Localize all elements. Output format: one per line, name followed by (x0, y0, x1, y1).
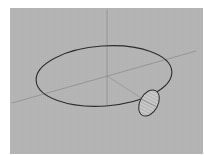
diagram-scene (10, 8, 203, 154)
diagonal-axis-line (12, 51, 196, 103)
figure-root (0, 0, 204, 155)
diagram-canvas-panel (10, 8, 203, 154)
